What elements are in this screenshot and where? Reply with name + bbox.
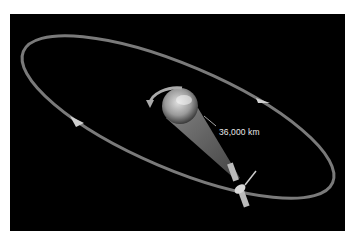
distance-label: 36,000 km [219,127,260,137]
orbit-diagram [0,0,356,241]
earth-icon [146,88,198,124]
satellite-icon [227,163,256,208]
